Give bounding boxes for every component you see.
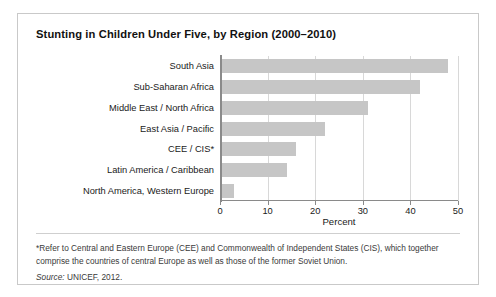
source-text: UNICEF, 2012. [67,272,122,282]
bar [222,122,325,136]
bar-row: East Asia / Pacific [222,122,325,136]
gridline [410,56,411,201]
gridline [458,56,459,201]
x-tick-label: 10 [262,206,272,216]
bar [222,101,368,115]
footnote: *Refer to Central and Eastern Europe (CE… [36,242,456,268]
category-label: East Asia / Pacific [140,124,214,134]
x-axis-label: Percent [220,216,458,227]
bar [222,163,287,177]
page-title: Stunting in Children Under Five, by Regi… [36,28,336,40]
source-note: Source: UNICEF, 2012. [36,272,122,282]
bar [222,80,420,94]
category-label: South Asia [170,61,214,71]
bar [222,59,448,73]
x-tick [363,201,364,205]
category-label: North America, Western Europe [83,186,214,196]
x-tick [268,201,269,205]
category-label: Sub-Saharan Africa [133,82,214,92]
category-label: Latin America / Caribbean [107,165,214,175]
bar [222,142,296,156]
category-label: Middle East / North Africa [109,103,214,113]
x-tick [220,201,221,205]
bar-row: Sub-Saharan Africa [222,80,420,94]
x-tick-label: 40 [405,206,415,216]
footer-divider [36,233,460,234]
x-tick-label: 0 [217,206,222,216]
bar-row: South Asia [222,59,448,73]
bar-row: Latin America / Caribbean [222,163,287,177]
x-tick-label: 50 [453,206,463,216]
chart-figure: Stunting in Children Under Five, by Regi… [17,13,479,285]
category-label: CEE / CIS* [168,144,214,154]
x-tick-label: 30 [358,206,368,216]
bar [222,184,234,198]
x-tick [315,201,316,205]
x-tick [410,201,411,205]
x-tick [458,201,459,205]
source-prefix: Source: [36,272,65,282]
gridline [363,56,364,201]
x-tick-label: 20 [310,206,320,216]
plot-area: South AsiaSub-Saharan AfricaMiddle East … [220,56,458,201]
bar-row: North America, Western Europe [222,184,234,198]
bar-row: CEE / CIS* [222,142,296,156]
bar-row: Middle East / North Africa [222,101,368,115]
